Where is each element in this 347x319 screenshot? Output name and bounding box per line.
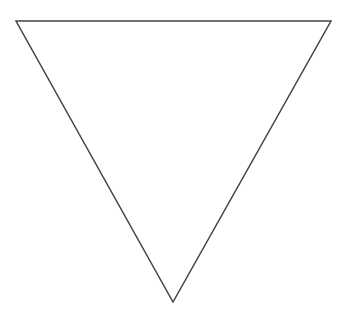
triangle-figure bbox=[0, 0, 347, 319]
diagram-canvas bbox=[0, 0, 347, 319]
inverted-triangle-shape bbox=[16, 21, 331, 302]
